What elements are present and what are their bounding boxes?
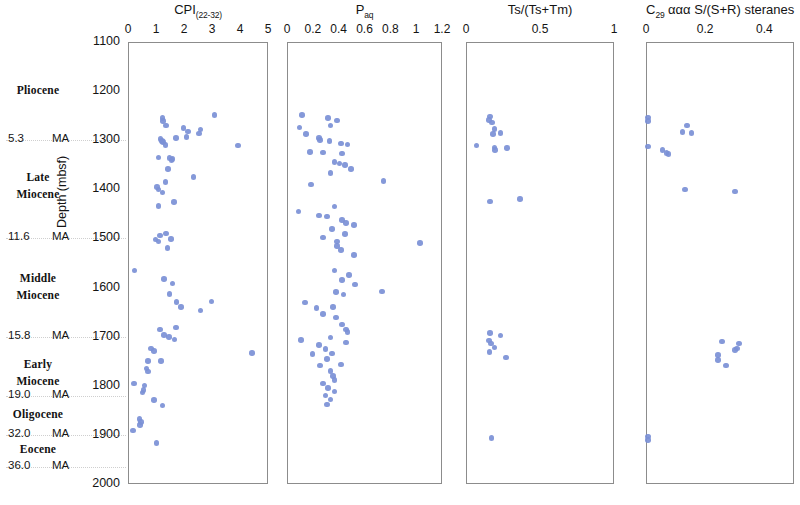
depth-tick-label: 1200: [78, 83, 120, 97]
panel-title-rest: ααα S/(S+R) steranes: [664, 2, 794, 17]
data-point: [345, 142, 351, 148]
data-point: [324, 402, 330, 408]
data-point: [379, 289, 385, 295]
data-point: [316, 213, 322, 219]
data-point: [156, 239, 162, 245]
scatter-panel: [287, 42, 442, 484]
data-point: [351, 222, 357, 228]
data-point: [682, 187, 688, 193]
x-tick-label: 0.2: [304, 22, 321, 36]
data-point: [381, 178, 387, 184]
data-point: [645, 144, 651, 150]
data-point: [161, 276, 167, 282]
age-unit: MA: [52, 230, 69, 242]
data-point: [342, 231, 348, 237]
panel-title: Ts/(Ts+Tm): [466, 2, 614, 17]
data-point: [490, 131, 496, 137]
data-point: [145, 369, 151, 375]
data-point: [196, 131, 202, 137]
data-point: [137, 422, 143, 428]
x-tick-label: 5: [265, 22, 272, 36]
x-tick-label: 4: [237, 22, 244, 36]
panel-title-main: CPI: [174, 2, 196, 17]
x-tick-label: 1: [413, 22, 420, 36]
data-point: [320, 150, 326, 156]
data-point: [165, 166, 171, 172]
data-point: [165, 245, 171, 251]
data-point: [327, 138, 333, 144]
epoch-label: Eocene: [0, 443, 76, 455]
data-point: [173, 325, 179, 331]
data-point: [328, 170, 334, 176]
data-point: [130, 428, 136, 434]
data-point: [209, 299, 215, 305]
age-unit: MA: [52, 329, 69, 341]
data-point: [163, 231, 169, 237]
age-value: 11.6: [8, 230, 30, 242]
x-tick-label: 0: [463, 22, 470, 36]
depth-tick-label: 1400: [78, 181, 120, 195]
data-point: [330, 304, 336, 310]
panel-title: Paq: [287, 2, 442, 20]
data-point: [645, 118, 651, 124]
panel-title: CPI(22-32): [128, 2, 268, 20]
data-point: [503, 355, 509, 361]
depth-tick-label: 1700: [78, 329, 120, 343]
data-point: [324, 214, 330, 220]
data-point: [498, 130, 504, 136]
panel-title-subscript: (22-32): [196, 10, 222, 20]
age-value: 15.8: [8, 329, 30, 341]
data-point: [172, 337, 178, 343]
data-point: [299, 112, 305, 118]
depth-tick-label: 1600: [78, 280, 120, 294]
data-point: [334, 118, 340, 124]
epoch-label: Middle: [0, 272, 76, 284]
data-point: [328, 123, 334, 129]
x-tick-label: 0.5: [532, 22, 549, 36]
depth-axis-title: Depth (mbsf): [55, 118, 69, 228]
data-point: [333, 289, 339, 295]
scatter-panel: [466, 42, 614, 484]
panel-title-main: Ts/(Ts+Tm): [508, 2, 573, 17]
data-point: [517, 196, 523, 202]
data-point: [329, 226, 335, 232]
data-point: [156, 203, 162, 209]
data-point: [151, 348, 157, 354]
data-point: [487, 330, 493, 336]
data-point: [235, 143, 241, 149]
data-point: [489, 435, 495, 441]
x-tick-label: 0.6: [356, 22, 373, 36]
data-point: [140, 390, 146, 396]
data-point: [341, 292, 347, 298]
data-point: [338, 362, 344, 368]
data-point: [198, 308, 204, 314]
data-point: [316, 342, 322, 348]
data-point: [145, 358, 151, 364]
data-point: [156, 155, 162, 161]
data-point: [343, 220, 349, 226]
data-point: [723, 363, 729, 369]
data-point: [171, 199, 177, 205]
data-point: [166, 334, 172, 340]
epoch-label: Oligocene: [0, 408, 76, 420]
depth-tick-label: 1300: [78, 132, 120, 146]
data-point: [169, 157, 175, 163]
data-point: [645, 437, 651, 443]
data-point: [345, 329, 351, 335]
data-point: [332, 204, 338, 210]
panel-title-main: P: [356, 2, 365, 17]
data-point: [492, 345, 498, 351]
x-tick-label: 0.4: [756, 22, 773, 36]
data-point: [732, 189, 738, 195]
data-point: [297, 125, 303, 131]
data-point: [191, 174, 197, 180]
epoch-label: Miocene: [0, 289, 76, 301]
data-point: [212, 112, 218, 118]
data-point: [160, 190, 166, 196]
x-tick-label: 0: [284, 22, 291, 36]
epoch-label: Miocene: [0, 375, 76, 387]
depth-tick-label: 2000: [78, 476, 120, 490]
data-point: [504, 145, 510, 151]
panel-title-main: C: [646, 2, 655, 17]
data-point: [157, 233, 163, 239]
